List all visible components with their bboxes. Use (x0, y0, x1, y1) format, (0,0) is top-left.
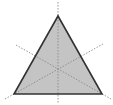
triangle-symmetry-diagram (0, 0, 113, 105)
equilateral-triangle (14, 16, 102, 94)
